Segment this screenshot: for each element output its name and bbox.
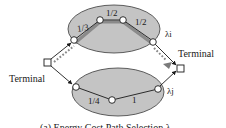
highlight-arrowhead xyxy=(163,62,172,69)
dotted-highlight-right xyxy=(154,48,166,60)
edge-weight-bottom-2: 1 xyxy=(132,95,137,105)
figure-caption: (a) Energy Cost Path Selection λ xyxy=(40,122,171,128)
node-top-2 xyxy=(97,17,104,24)
node-bottom-1 xyxy=(73,84,80,91)
node-bottom-2 xyxy=(109,97,116,104)
node-bottom-3 xyxy=(155,86,162,93)
edge-weight-top-3: 1/2 xyxy=(135,17,147,27)
path-selection-diagram: 1/3 1/2 1/2 1/4 1 λi λj Terminal Termina… xyxy=(0,0,226,128)
left-terminal-label: Terminal xyxy=(9,73,45,84)
arrow-top-to-right xyxy=(155,44,176,65)
node-top-3 xyxy=(120,17,127,24)
edge-weight-top-1: 1/3 xyxy=(76,22,89,34)
right-terminal-label: Terminal xyxy=(178,48,214,59)
right-terminal-square xyxy=(177,65,184,72)
edge-weight-bottom-1: 1/4 xyxy=(88,96,100,106)
node-top-4 xyxy=(150,39,157,46)
node-top-1 xyxy=(71,37,78,44)
bottom-cluster-label: λj xyxy=(167,86,174,96)
top-cluster-label: λi xyxy=(165,29,172,39)
arrow-left-to-bottom xyxy=(51,66,72,84)
left-terminal-square xyxy=(44,59,51,66)
arrow-bottom-to-right xyxy=(160,71,176,86)
edge-weight-top-2: 1/2 xyxy=(106,8,118,18)
bottom-cluster-ellipse xyxy=(72,68,164,116)
